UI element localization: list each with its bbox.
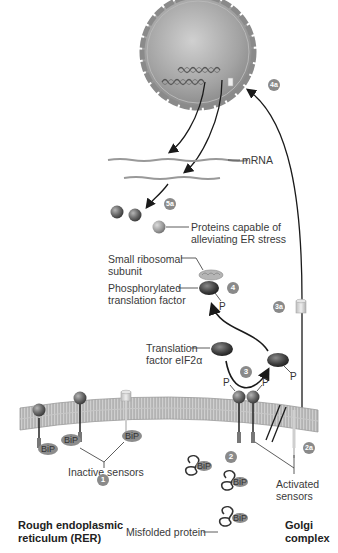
proteins-label-line2: alleviating ER stress	[191, 233, 286, 245]
step-badge-3: 3	[240, 366, 252, 378]
golgi-label-line1: Golgi	[285, 519, 313, 532]
small-ribosomal-label-line1: Small ribosomal	[108, 253, 183, 265]
stress-proteins	[111, 206, 190, 234]
bip-label: BiP	[41, 444, 55, 454]
phosphate-label: P	[262, 377, 269, 388]
step-badge-1: 1	[97, 474, 109, 486]
step-badge-5a: 5a	[164, 198, 176, 210]
phosphate-label: P	[290, 371, 297, 382]
step-badge-3a: 3a	[273, 301, 285, 313]
bip-label: BiP	[64, 435, 78, 445]
misfolded-protein-3: BiP	[203, 507, 248, 532]
proteins-label-line1: Proteins capable of	[191, 221, 281, 233]
misfolded-protein-1: BiP	[186, 456, 212, 475]
cleaved-sensor-fragment	[228, 78, 233, 86]
step-badge-4: 4	[227, 282, 239, 294]
misfolded-protein-2: BiP	[222, 471, 248, 490]
translation-factor-label-line2: factor eIF2α	[146, 354, 202, 366]
mrna-strands	[108, 159, 248, 179]
diagram-canvas: BiP BiP BiP BiP	[0, 0, 338, 553]
bip-label: BiP	[233, 477, 247, 487]
small-ribosomal-subunit	[181, 258, 223, 280]
golgi-label-line2: complex	[285, 532, 330, 545]
rer-label-line1: Rough endoplasmic	[18, 519, 123, 532]
nucleus	[142, 0, 254, 108]
step-badge-2: 2	[225, 451, 237, 463]
rer-label-line2: reticulum (RER)	[18, 532, 101, 545]
step-badge-4a: 4a	[268, 79, 280, 91]
translation-factor-label-line1: Translation	[146, 342, 198, 354]
bip-label: BiP	[125, 431, 139, 441]
phosphorylated-eif2a	[267, 353, 291, 373]
phosphate-label: P	[219, 301, 226, 312]
activated-sensors-label-line2: sensors	[276, 490, 313, 502]
step-badge-2a: 2a	[303, 442, 315, 454]
mrna-label: mRNA	[242, 154, 273, 166]
phosphorylated-label-line1: Phosphorylated	[108, 282, 181, 294]
bip-label: BiP	[233, 513, 247, 523]
small-ribosomal-label-line2: subunit	[108, 265, 142, 277]
phosphate-label: P	[223, 377, 230, 388]
bip-label: BiP	[197, 461, 211, 471]
cleaved-sensor-3a	[296, 299, 306, 313]
activated-sensors-label-line1: Activated	[276, 478, 319, 490]
phosphorylated-label-line2: translation factor	[108, 294, 186, 306]
misfolded-protein-label: Misfolded protein	[126, 526, 206, 538]
upr-diagram: BiP BiP BiP BiP	[0, 0, 338, 553]
